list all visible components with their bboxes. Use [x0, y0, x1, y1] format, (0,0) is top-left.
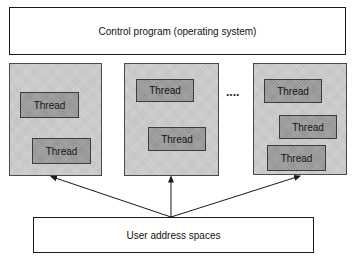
thread-box: Thread	[20, 92, 79, 118]
control-program-box: Control program (operating system)	[9, 7, 346, 55]
thread-label: Thread	[281, 153, 313, 164]
thread-box: Thread	[264, 79, 322, 103]
thread-label: Thread	[46, 146, 78, 157]
user-address-spaces-box: User address spaces	[33, 217, 314, 253]
thread-box: Thread	[136, 79, 194, 102]
ellipsis-more-spaces: ....	[226, 86, 239, 98]
thread-box: Thread	[148, 127, 206, 151]
thread-box: Thread	[267, 145, 326, 171]
thread-label: Thread	[149, 85, 181, 96]
user-address-spaces-label: User address spaces	[127, 230, 221, 241]
thread-box: Thread	[32, 138, 91, 164]
thread-label: Thread	[161, 134, 193, 145]
control-program-label: Control program (operating system)	[99, 26, 257, 37]
thread-label: Thread	[277, 86, 309, 97]
thread-label: Thread	[292, 122, 324, 133]
arrow-to-space-3	[171, 176, 300, 217]
thread-label: Thread	[34, 100, 66, 111]
thread-box: Thread	[279, 115, 337, 139]
arrow-to-space-1	[51, 177, 171, 218]
